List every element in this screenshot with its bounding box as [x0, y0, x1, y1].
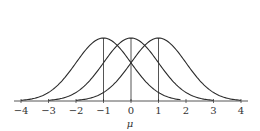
x-tick-label: 2 — [183, 105, 189, 116]
x-tick-label: −3 — [41, 105, 56, 116]
x-ticks: −4−3−2−101234 — [14, 99, 245, 116]
density-curve — [21, 38, 181, 100]
mean-lines — [104, 38, 159, 101]
x-tick-label: 3 — [210, 105, 216, 116]
x-tick-label: −2 — [69, 105, 84, 116]
x-tick-label: 0 — [128, 105, 134, 116]
x-tick-label: −4 — [14, 105, 29, 116]
x-tick-label: −1 — [96, 105, 111, 116]
normal-curves-chart: −4−3−2−101234 μ — [0, 0, 260, 131]
x-tick-label: 1 — [155, 105, 161, 116]
x-axis-label: μ — [127, 118, 134, 129]
x-tick-label: 4 — [238, 105, 244, 116]
